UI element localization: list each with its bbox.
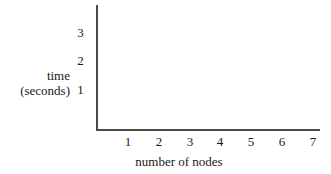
x-tick-label-1: 1 <box>117 135 139 148</box>
x-tick-label-5: 5 <box>240 135 262 148</box>
y-tick-label-2: 2 <box>54 54 84 67</box>
x-tick-label-7: 7 <box>302 135 324 148</box>
x-tick-label-6: 6 <box>271 135 293 148</box>
y-tick-label-3: 3 <box>54 26 84 39</box>
chart-figure: time (seconds) 3 2 1 1 2 3 4 5 6 7 numbe… <box>0 0 331 174</box>
plot-area <box>98 5 320 129</box>
x-tick-label-2: 2 <box>148 135 170 148</box>
y-axis-title-line-1: time <box>0 68 70 83</box>
x-tick-label-4: 4 <box>209 135 231 148</box>
x-axis-line <box>96 129 320 131</box>
y-tick-label-1: 1 <box>54 83 84 96</box>
x-tick-label-3: 3 <box>179 135 201 148</box>
x-axis-title: number of nodes <box>0 155 331 169</box>
